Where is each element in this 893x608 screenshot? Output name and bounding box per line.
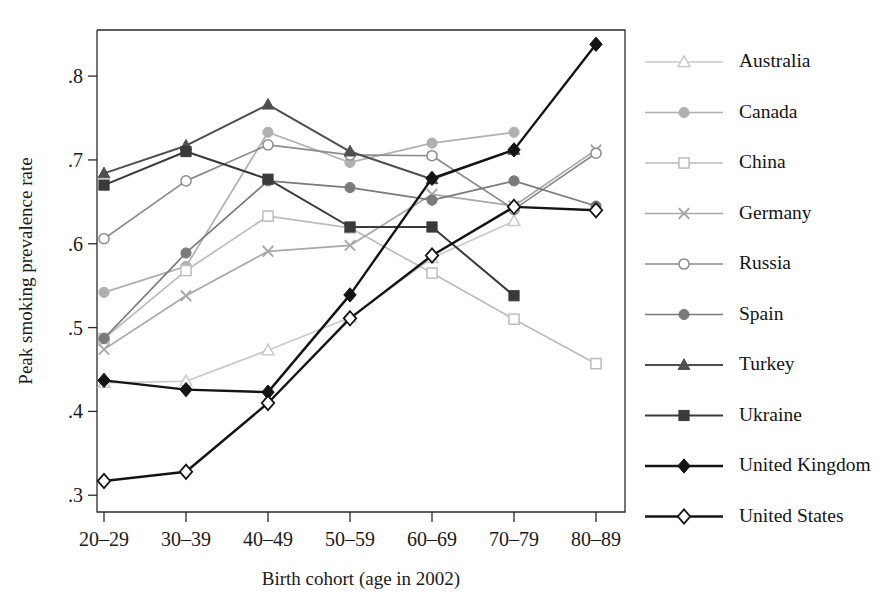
datapoint-russia-2 xyxy=(263,140,273,150)
datapoint-china-4 xyxy=(427,268,437,278)
series-united-kingdom xyxy=(98,37,602,399)
x-tick-label-5: 70–79 xyxy=(489,528,539,550)
datapoint-germany-1 xyxy=(181,290,192,301)
datapoint-russia-6 xyxy=(591,148,601,158)
datapoint-ukraine-0 xyxy=(99,180,109,190)
legend-item-united-states[interactable]: United States xyxy=(641,499,881,535)
datapoint-united-states-0 xyxy=(98,474,110,488)
datapoint-canada-2 xyxy=(263,127,273,137)
datapoint-spain-1 xyxy=(181,248,191,258)
legend-label: Russia xyxy=(739,252,791,273)
y-tick-label-4: .7 xyxy=(68,149,83,171)
legend-label: Australia xyxy=(739,50,811,71)
y-axis-title: Peak smoking prevalence rate xyxy=(15,157,36,384)
legend-item-turkey[interactable]: Turkey xyxy=(641,347,881,383)
datapoint-ukraine-1 xyxy=(181,146,191,156)
legend-item-australia[interactable]: Australia xyxy=(641,44,881,80)
datapoint-spain-4 xyxy=(427,195,437,205)
datapoint-china-5 xyxy=(509,314,519,324)
series-united-states xyxy=(98,200,602,488)
legend-swatch-marker xyxy=(679,410,689,420)
datapoint-spain-5 xyxy=(509,176,519,186)
legend-label: Germany xyxy=(739,202,812,223)
datapoint-ukraine-2 xyxy=(263,174,273,184)
series-canada xyxy=(99,127,519,297)
legend-label: United Kingdom xyxy=(739,454,871,475)
legend-label: Spain xyxy=(739,303,784,324)
x-tick-label-2: 40–49 xyxy=(243,528,293,550)
datapoint-russia-0 xyxy=(99,234,109,244)
legend-item-canada[interactable]: Canada xyxy=(641,95,881,131)
legend-swatch-marker xyxy=(679,158,689,168)
datapoint-ukraine-5 xyxy=(509,291,519,301)
x-tick-label-3: 50–59 xyxy=(325,528,375,550)
datapoint-germany-0 xyxy=(99,344,110,355)
datapoint-china-1 xyxy=(181,265,191,275)
legend-label: Ukraine xyxy=(739,404,802,425)
series-line-united-states xyxy=(104,207,596,481)
legend-swatch-marker xyxy=(679,107,689,117)
legend-label: China xyxy=(739,151,786,172)
legend-label: Turkey xyxy=(739,353,795,374)
x-axis-title: Birth cohort (age in 2002) xyxy=(262,568,460,590)
datapoint-china-2 xyxy=(263,211,273,221)
x-tick-label-0: 20–29 xyxy=(79,528,129,550)
datapoint-ukraine-3 xyxy=(345,222,355,232)
datapoint-spain-0 xyxy=(99,333,109,343)
legend-label: Canada xyxy=(739,101,798,122)
chart-figure: .3.4.5.6.7.820–2930–3940–4950–5960–6970–… xyxy=(0,0,893,608)
x-tick-label-4: 60–69 xyxy=(407,528,457,550)
legend-item-ukraine[interactable]: Ukraine xyxy=(641,398,881,434)
datapoint-canada-4 xyxy=(427,138,437,148)
legend-item-germany[interactable]: Germany xyxy=(641,196,881,232)
y-tick-label-2: .5 xyxy=(68,317,83,339)
y-tick-label-3: .6 xyxy=(68,233,83,255)
line-chart: .3.4.5.6.7.820–2930–3940–4950–5960–6970–… xyxy=(0,0,893,608)
legend-item-china[interactable]: China xyxy=(641,145,881,181)
legend-label: United States xyxy=(739,505,844,526)
datapoint-russia-4 xyxy=(427,151,437,161)
x-tick-label-6: 80–89 xyxy=(571,528,621,550)
legend-item-united-kingdom[interactable]: United Kingdom xyxy=(641,448,881,484)
datapoint-spain-3 xyxy=(345,183,355,193)
datapoint-turkey-3 xyxy=(344,145,356,156)
datapoint-ukraine-4 xyxy=(427,222,437,232)
x-tick-label-1: 30–39 xyxy=(161,528,211,550)
series-line-turkey xyxy=(104,105,514,180)
datapoint-australia-5 xyxy=(508,215,520,226)
y-tick-label-5: .8 xyxy=(68,65,83,87)
legend-swatch-marker xyxy=(679,259,689,269)
datapoint-china-6 xyxy=(591,359,601,369)
y-tick-label-1: .4 xyxy=(68,400,83,422)
datapoint-turkey-2 xyxy=(262,98,274,109)
datapoint-canada-5 xyxy=(509,127,519,137)
legend-swatch-marker xyxy=(679,309,689,319)
series-line-canada xyxy=(104,132,514,292)
legend: AustraliaCanadaChinaGermanyRussiaSpainTu… xyxy=(641,44,881,535)
datapoint-russia-1 xyxy=(181,176,191,186)
series-line-united-kingdom xyxy=(104,44,596,392)
plot-frame xyxy=(97,30,625,512)
legend-item-russia[interactable]: Russia xyxy=(641,246,881,282)
legend-item-spain[interactable]: Spain xyxy=(641,297,881,333)
y-tick-label-0: .3 xyxy=(68,484,83,506)
datapoint-canada-0 xyxy=(99,287,109,297)
